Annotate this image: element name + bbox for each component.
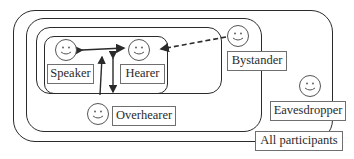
hearer-smiley-face-icon (127, 38, 151, 62)
speaker-hearer-arrow (82, 48, 124, 50)
overhearer-up-arrow (100, 57, 102, 95)
overhearer-smiley-face-icon (86, 102, 110, 126)
speaker-smiley-face-icon (54, 38, 78, 62)
bystander-smiley-face-icon (226, 24, 250, 48)
eavesdropper-smiley-face-icon (298, 74, 322, 98)
hearer-label: Hearer (120, 64, 165, 84)
all-participants-label: All participants (255, 131, 343, 151)
speaker-label: Speaker (47, 64, 94, 84)
overhearer-label: Overhearer (112, 106, 176, 126)
eavesdropper-label: Eavesdropper (270, 101, 346, 121)
bystander-hearer-arrow (161, 37, 226, 49)
bystander-label: Bystander (227, 51, 287, 71)
